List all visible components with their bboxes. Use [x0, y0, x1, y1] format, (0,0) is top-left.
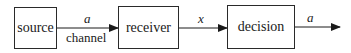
edge-label-a-channel: a	[84, 12, 91, 25]
edge-label-x: x	[198, 12, 204, 25]
edge-label-a-output: a	[307, 11, 314, 24]
block-diagram: source receiver decision a channel x a	[0, 0, 351, 53]
edge-label-channel: channel	[66, 31, 106, 44]
decision-label: decision	[238, 19, 285, 35]
source-label: source	[17, 20, 54, 36]
receiver-box: receiver	[118, 6, 179, 49]
source-box: source	[14, 7, 57, 49]
receiver-label: receiver	[126, 20, 171, 36]
decision-box: decision	[227, 5, 295, 49]
